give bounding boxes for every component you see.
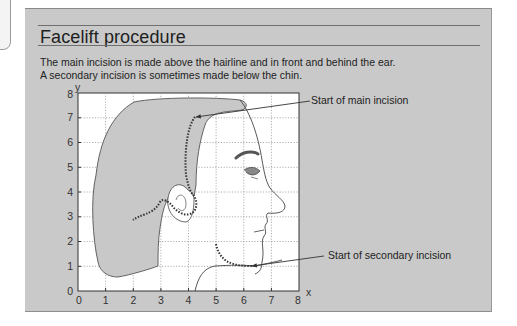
callout-main-incision: Start of main incision [311, 94, 408, 106]
x-tick-4: 4 [186, 294, 192, 306]
y-axis-label: y [75, 81, 81, 93]
y-tick-1: 1 [67, 260, 73, 272]
x-tick-6: 6 [241, 294, 247, 306]
y-tick-8: 8 [67, 88, 73, 100]
y-tick-7: 7 [67, 111, 73, 123]
x-tick-8: 8 [295, 294, 301, 306]
y-tick-5: 5 [67, 161, 73, 173]
y-tick-6: 6 [67, 136, 73, 148]
x-tick-3: 3 [158, 294, 164, 306]
y-tick-0: 0 [67, 285, 73, 297]
x-tick-5: 5 [213, 294, 219, 306]
y-tick-4: 4 [67, 186, 73, 198]
y-tick-3: 3 [67, 210, 73, 222]
x-axis-label: x [306, 286, 312, 298]
callout-secondary-incision: Start of secondary incision [328, 249, 451, 261]
x-tick-0: 0 [76, 294, 82, 306]
x-tick-2: 2 [130, 294, 136, 306]
face-diagram: 0 1 2 3 4 5 6 7 8 0 1 2 3 4 5 6 7 8 x y [0, 0, 517, 326]
x-tick-1: 1 [103, 294, 109, 306]
y-tick-2: 2 [67, 235, 73, 247]
x-tick-7: 7 [268, 294, 274, 306]
